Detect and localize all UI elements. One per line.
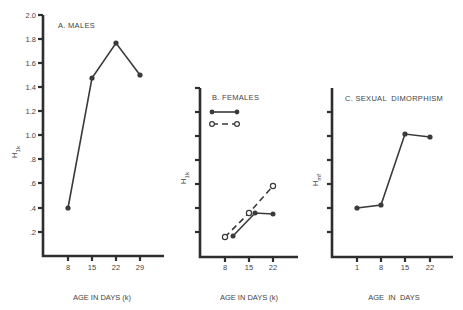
panel-c-line bbox=[357, 134, 430, 208]
svg-text:H1k: H1k bbox=[179, 171, 190, 184]
panel-b-x-label: AGE IN DAYS (k) bbox=[220, 293, 279, 302]
panel-a-points bbox=[65, 40, 142, 210]
panel-a-y-label: H1k bbox=[10, 145, 21, 158]
figure: 2.0 1.8 1.6 1.4 1.2 1.0 .8 .6 .4 .2 8 15… bbox=[0, 0, 463, 310]
panel-a-title: A. MALES bbox=[58, 21, 95, 30]
panel-b-legend bbox=[210, 110, 240, 127]
svg-text:Hmf: Hmf bbox=[311, 174, 322, 186]
svg-text:8: 8 bbox=[379, 263, 383, 272]
svg-text:.4: .4 bbox=[30, 204, 36, 213]
panel-a-axes bbox=[43, 15, 164, 256]
svg-text:1.6: 1.6 bbox=[26, 59, 36, 68]
svg-text:15: 15 bbox=[88, 263, 96, 272]
svg-text:H1k: H1k bbox=[10, 145, 21, 158]
svg-text:15: 15 bbox=[401, 263, 409, 272]
panel-c-title: C. SEXUAL DIMORPHISM bbox=[345, 94, 443, 103]
panel-c-points bbox=[354, 131, 432, 210]
svg-text:22: 22 bbox=[269, 263, 277, 272]
panel-c-sexual-dimorphism: 1 8 15 22 C. SEXUAL DIMORPHISM Hmf AGE I… bbox=[311, 88, 453, 302]
panel-b-title: B. FEMALES bbox=[212, 93, 259, 102]
panel-b-females: 8 15 22 B. FEMALES H1k AGE IN DAYS (k) bbox=[179, 88, 298, 302]
svg-text:29: 29 bbox=[136, 263, 144, 272]
svg-text:8: 8 bbox=[66, 263, 70, 272]
svg-text:2.0: 2.0 bbox=[26, 11, 36, 20]
svg-text:22: 22 bbox=[112, 263, 120, 272]
svg-text:8: 8 bbox=[223, 263, 227, 272]
panel-b-axes bbox=[200, 88, 298, 257]
panel-a-x-label: AGE IN DAYS (k) bbox=[73, 293, 132, 302]
svg-text:1.0: 1.0 bbox=[26, 131, 36, 140]
svg-text:1.2: 1.2 bbox=[26, 107, 36, 116]
panel-a-males: 2.0 1.8 1.6 1.4 1.2 1.0 .8 .6 .4 .2 8 15… bbox=[10, 11, 164, 302]
panel-b-y-label: H1k bbox=[179, 171, 190, 184]
svg-text:1.8: 1.8 bbox=[26, 35, 36, 44]
svg-text:.6: .6 bbox=[30, 179, 36, 188]
panel-a-line bbox=[68, 43, 140, 208]
svg-text:.8: .8 bbox=[30, 155, 36, 164]
svg-text:1: 1 bbox=[355, 263, 359, 272]
svg-text:22: 22 bbox=[426, 263, 434, 272]
panel-a-y-tick-labels: 2.0 1.8 1.6 1.4 1.2 1.0 .8 .6 .4 .2 bbox=[26, 11, 36, 237]
panel-b-solid-line bbox=[233, 213, 273, 236]
svg-text:1.4: 1.4 bbox=[26, 83, 36, 92]
panel-c-y-label: Hmf bbox=[311, 174, 322, 186]
panel-c-x-tick-labels: 1 8 15 22 bbox=[355, 263, 434, 272]
panel-a-x-tick-labels: 8 15 22 29 bbox=[66, 263, 144, 272]
svg-text:15: 15 bbox=[245, 263, 253, 272]
panel-b-x-tick-labels: 8 15 22 bbox=[223, 263, 277, 272]
svg-text:.2: .2 bbox=[30, 228, 36, 237]
panel-c-x-label: AGE IN DAYS bbox=[368, 293, 420, 302]
